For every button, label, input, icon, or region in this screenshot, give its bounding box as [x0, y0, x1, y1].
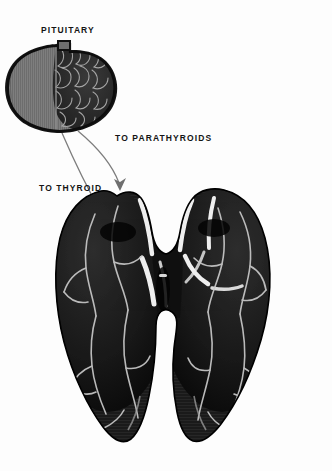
- isthmus-specular: [159, 274, 167, 277]
- pituitary-stalk: [58, 41, 70, 50]
- parathyroids-arrowhead: [114, 178, 126, 191]
- label-to-thyroid: TO THYROID: [39, 184, 102, 193]
- label-to-parathyroids: TO PARATHYROIDS: [115, 134, 212, 143]
- pituitary-posterior-lobe: [53, 44, 117, 130]
- anatomy-figure: PITUITARY TO PARATHYROIDS TO THYROID: [0, 0, 332, 471]
- label-pituitary: PITUITARY: [41, 26, 95, 35]
- anatomy-illustration: [0, 0, 332, 471]
- pituitary-gland: [0, 38, 332, 138]
- parathyroids-leader-line: [78, 131, 119, 183]
- thyroid-gland: [40, 180, 300, 455]
- pituitary-anterior-lobe: [0, 38, 332, 138]
